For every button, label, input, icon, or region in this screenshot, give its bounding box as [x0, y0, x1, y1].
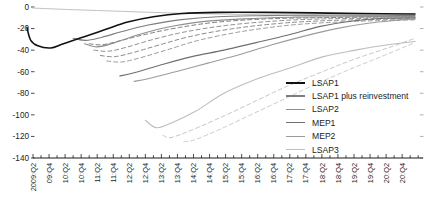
legend-item-lsap3: LSAP3 [286, 143, 409, 156]
legend-label: MEP2 [312, 131, 335, 141]
legend-label: LSAP1 plus reinvestment [312, 91, 409, 101]
x-axis-tick-label: 18:Q2 [318, 163, 327, 183]
x-axis-tick-label: 10:Q2 [61, 163, 70, 183]
x-axis-tick-label: 10:Q4 [77, 163, 86, 183]
x-axis-tick-label: 09:Q4 [45, 163, 54, 183]
legend-label: LSAP3 [312, 145, 339, 155]
legend-item-lsap1: LSAP1 [286, 76, 409, 89]
x-axis-tick-label: 20:Q2 [382, 163, 391, 183]
x-axis-tick-label: 12:Q2 [125, 163, 134, 183]
legend-line-swatch [286, 82, 305, 84]
x-axis-tick-label: 16:Q4 [269, 163, 278, 183]
x-axis-tick-label: 14:Q4 [205, 163, 214, 183]
legend-item-mep1: MEP1 [286, 116, 409, 129]
y-axis-tick-label: -80 [17, 89, 29, 98]
x-axis-tick-label: 15:Q4 [237, 163, 246, 183]
series-line-lsap2-dashed-variant [94, 18, 415, 52]
x-axis-tick-label: 18:Q4 [334, 163, 343, 183]
x-axis-tick-label: 11:Q2 [93, 163, 102, 183]
legend: LSAP1 LSAP1 plus reinvestment LSAP2 MEP1… [286, 76, 409, 156]
x-axis-tick-label: 15:Q2 [221, 163, 230, 183]
y-axis-tick-label: -100 [13, 111, 30, 120]
y-axis-tick-label: -120 [13, 132, 30, 141]
x-axis-tick-label: 13:Q4 [173, 163, 182, 183]
x-axis-tick-label: 17:Q2 [285, 163, 294, 183]
series-line-mep1-dashed-variant [100, 19, 415, 57]
y-axis-tick-label: -40 [17, 46, 29, 55]
figure: 0-20-40-60-80-100-120-1402009:Q209:Q410:… [0, 0, 424, 214]
x-axis-tick-label: 12:Q4 [141, 163, 150, 183]
legend-item-mep2: MEP2 [286, 130, 409, 143]
x-axis-tick-label: 11:Q4 [109, 163, 118, 183]
x-axis-tick-label: 16:Q2 [253, 163, 262, 183]
legend-line-swatch [286, 136, 305, 137]
y-axis-tick-label: 0 [24, 3, 29, 12]
legend-label: LSAP2 [312, 104, 339, 114]
x-axis-tick-label: 17:Q4 [301, 163, 310, 183]
x-axis-tick-label: 14:Q2 [189, 163, 198, 183]
series-line-lsap1-plus-reinvestment-dashed-variant [89, 17, 415, 45]
x-axis-tick-label: 20:Q4 [398, 163, 407, 183]
x-axis-tick-label: 13:Q2 [157, 163, 166, 183]
legend-item-lsap2: LSAP2 [286, 103, 409, 116]
legend-line-swatch [286, 122, 305, 123]
legend-line-swatch [286, 149, 305, 150]
x-axis-tick-label: 19:Q4 [366, 163, 375, 183]
y-axis-tick-label: -140 [13, 154, 30, 163]
x-axis-tick-label: 19:Q2 [350, 163, 359, 183]
legend-label: MEP1 [312, 118, 335, 128]
series-line-mep1 [120, 18, 415, 76]
legend-label: LSAP1 [312, 78, 339, 88]
legend-line-swatch [286, 95, 305, 96]
legend-line-swatch [286, 109, 305, 110]
series-line-mep2 [134, 19, 415, 82]
legend-item-lsap1-plus-reinvestment: LSAP1 plus reinvestment [286, 89, 409, 102]
y-axis-tick-label: -60 [17, 68, 29, 77]
x-axis-tick-label: 2009:Q2 [29, 163, 38, 191]
